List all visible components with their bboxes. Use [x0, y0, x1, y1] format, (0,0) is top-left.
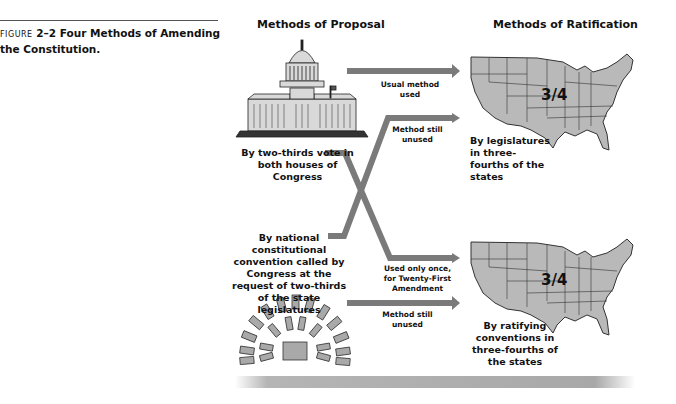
ratification-legislatures-label: By legislatures in three-fourths of the …	[470, 135, 555, 183]
arrow-note-unused-2: Method still unused	[370, 310, 445, 330]
proposal-convention-label: By national constitutional convention ca…	[226, 232, 352, 316]
proposal-congress-label: By two-thirds vote in both houses of Con…	[240, 147, 355, 183]
base-shadow	[235, 376, 635, 388]
map-fraction-2: 3/4	[541, 271, 567, 289]
capitol-building-icon	[236, 40, 368, 137]
arrow-note-unused-1: Method still unused	[385, 125, 450, 145]
arrow-note-21st: Used only once, for Twenty-First Amendme…	[380, 264, 455, 294]
arrow-convention-to-conventions	[347, 296, 460, 310]
arrow-congress-to-legislatures	[347, 64, 460, 78]
diagram-graphics: 3/4 3/4	[0, 0, 676, 404]
arrow-note-usual: Usual method used	[370, 80, 450, 100]
ratification-conventions-label: By ratifying conventions in three-fourth…	[470, 320, 560, 368]
map-fraction-1: 3/4	[541, 86, 567, 104]
